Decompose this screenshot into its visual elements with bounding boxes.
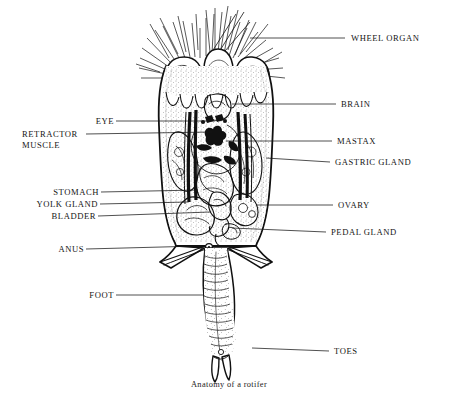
label-pedal-gland: PEDAL GLAND bbox=[331, 227, 397, 237]
label-stomach: STOMACH bbox=[53, 187, 99, 197]
leader-gastric-gland bbox=[266, 158, 330, 162]
label-bladder: BLADDER bbox=[52, 211, 96, 221]
label-foot: FOOT bbox=[89, 290, 114, 300]
label-retractor-muscle-line2: MUSCLE bbox=[22, 140, 60, 150]
label-ovary: OVARY bbox=[338, 200, 370, 210]
leader-toes bbox=[252, 348, 329, 351]
label-toes: TOES bbox=[334, 346, 358, 356]
label-retractor-muscle-line1: RETRACTOR bbox=[22, 129, 78, 139]
figure-caption: Anatomy of a rotifer bbox=[191, 380, 267, 389]
foot-organ bbox=[200, 246, 242, 366]
rotifer-illustration bbox=[136, 6, 285, 382]
label-brain: BRAIN bbox=[341, 99, 371, 109]
figure-canvas: EYE RETRACTOR MUSCLE STOMACH YOLK GLAND … bbox=[0, 0, 458, 409]
rotifer-diagram: EYE RETRACTOR MUSCLE STOMACH YOLK GLAND … bbox=[0, 0, 458, 409]
label-gastric-gland: GASTRIC GLAND bbox=[335, 157, 411, 167]
label-wheel-organ: WHEEL ORGAN bbox=[351, 33, 420, 43]
label-mastax: MASTAX bbox=[337, 136, 376, 146]
label-yolk-gland: YOLK GLAND bbox=[36, 199, 98, 209]
label-eye: EYE bbox=[96, 116, 114, 126]
label-anus: ANUS bbox=[58, 244, 84, 254]
